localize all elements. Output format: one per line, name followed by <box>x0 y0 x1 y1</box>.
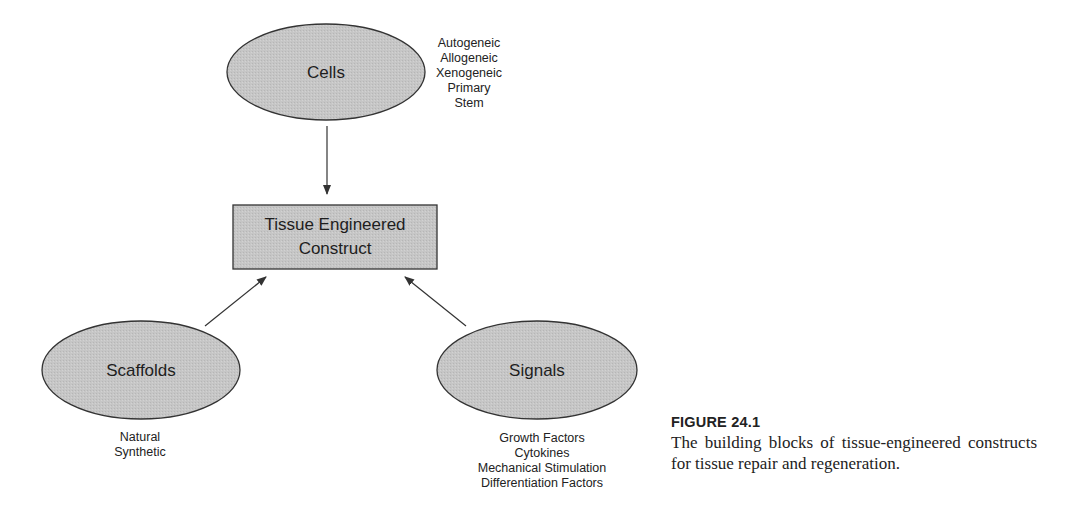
cells-node: Cells <box>227 24 425 120</box>
figure-caption-text: The building blocks of tissue-engineered… <box>671 432 1037 474</box>
scaffolds-item: Natural <box>95 430 185 445</box>
signals-label: Signals <box>509 361 565 380</box>
scaffolds-items-list: Natural Synthetic <box>95 430 185 460</box>
cells-item: Allogeneic <box>424 51 514 66</box>
scaffolds-node: Scaffolds <box>42 321 240 419</box>
arrow-scaffolds-to-construct <box>205 277 266 326</box>
cells-label: Cells <box>307 63 345 82</box>
cells-item: Primary <box>424 81 514 96</box>
construct-label-line1: Tissue Engineered <box>264 215 405 234</box>
signals-item: Mechanical Stimulation <box>457 461 627 476</box>
signals-node: Signals <box>437 321 637 419</box>
signals-item: Cytokines <box>457 446 627 461</box>
figure-caption: FIGURE 24.1 The building blocks of tissu… <box>671 413 1081 474</box>
scaffolds-label: Scaffolds <box>106 361 176 380</box>
cells-item: Stem <box>424 96 514 111</box>
scaffolds-item: Synthetic <box>95 445 185 460</box>
construct-label-line2: Construct <box>299 239 372 258</box>
signals-items-list: Growth Factors Cytokines Mechanical Stim… <box>457 431 627 491</box>
figure-number: FIGURE 24.1 <box>671 413 1081 432</box>
cells-items-list: Autogeneic Allogeneic Xenogeneic Primary… <box>424 36 514 111</box>
arrow-signals-to-construct <box>405 277 466 326</box>
cells-item: Xenogeneic <box>424 66 514 81</box>
construct-node: Tissue Engineered Construct <box>233 205 437 269</box>
signals-item: Differentiation Factors <box>457 476 627 491</box>
signals-item: Growth Factors <box>457 431 627 446</box>
cells-item: Autogeneic <box>424 36 514 51</box>
